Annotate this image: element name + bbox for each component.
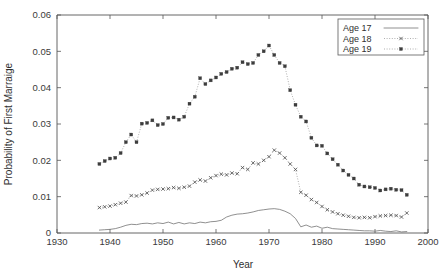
y-tick-label: 0.05 [33, 46, 52, 57]
data-point-marker [358, 183, 361, 186]
y-tick-label: 0.03 [33, 118, 52, 129]
data-point-marker [246, 63, 249, 66]
legend-label-age-17[interactable]: Age 17 [343, 23, 372, 33]
data-point-marker [103, 160, 106, 163]
x-tick-label: 1940 [99, 236, 120, 247]
y-tick-label: 0.04 [33, 82, 52, 93]
x-tick-label: 1950 [152, 236, 173, 247]
data-point-marker [326, 152, 329, 155]
data-point-marker [310, 136, 313, 139]
data-point-marker [220, 72, 223, 75]
x-tick-label: 2000 [417, 236, 438, 247]
data-point-marker [209, 79, 212, 82]
data-point-marker [315, 144, 318, 147]
x-tick-label: 1980 [311, 236, 332, 247]
data-point-marker [331, 158, 334, 161]
data-point-marker [342, 169, 345, 172]
data-point-marker [241, 61, 244, 64]
data-point-marker [347, 173, 350, 176]
data-point-marker [109, 157, 112, 160]
data-point-marker [172, 116, 175, 119]
data-point-marker [252, 61, 255, 64]
data-point-marker [305, 120, 308, 123]
y-tick-label: 0.06 [33, 9, 52, 20]
y-tick-label: 0 [46, 227, 51, 238]
data-point-marker [225, 71, 228, 74]
data-point-marker [374, 186, 377, 189]
y-axis-title: Probability of First Marraige [3, 62, 14, 185]
data-point-marker [230, 67, 233, 70]
data-point-marker [204, 83, 207, 86]
data-point-marker [400, 189, 403, 192]
data-point-marker [273, 53, 276, 56]
data-point-marker [294, 103, 297, 106]
legend-label-age-19[interactable]: Age 19 [343, 44, 372, 54]
data-point-marker [289, 89, 292, 92]
x-tick-label: 1960 [205, 236, 226, 247]
data-point-marker [162, 123, 165, 126]
data-point-marker [135, 141, 138, 144]
data-point-marker [156, 124, 159, 127]
data-point-marker [130, 133, 133, 136]
data-point-marker [278, 61, 281, 64]
data-point-marker [336, 163, 339, 166]
legend-marker [400, 48, 403, 51]
x-tick-label: 1990 [364, 236, 385, 247]
data-point-marker [167, 116, 170, 119]
y-tick-label: 0.01 [33, 191, 52, 202]
figure-container: 19301940195019601970198019902000 00.010.… [0, 0, 446, 277]
figure-caption-fragment [0, 269, 446, 277]
data-point-marker [199, 77, 202, 80]
y-tick-label: 0.02 [33, 155, 52, 166]
data-point-marker [352, 177, 355, 180]
data-point-marker [368, 186, 371, 189]
data-point-marker [193, 95, 196, 98]
data-point-marker [114, 156, 117, 159]
data-point-marker [183, 115, 186, 118]
data-point-marker [188, 102, 191, 105]
data-point-marker [98, 162, 101, 165]
data-point-marker [177, 118, 180, 121]
line-chart: 19301940195019601970198019902000 00.010.… [0, 0, 446, 277]
legend-label-age-18[interactable]: Age 18 [343, 34, 372, 44]
data-point-marker [379, 189, 382, 192]
data-point-marker [384, 188, 387, 191]
x-tick-label: 1970 [258, 236, 279, 247]
data-point-marker [321, 144, 324, 147]
data-point-marker [146, 121, 149, 124]
data-point-marker [268, 44, 271, 47]
data-point-marker [119, 152, 122, 155]
data-point-marker [257, 53, 260, 56]
chart-legend[interactable]: Age 17Age 18Age 19 [338, 19, 424, 55]
data-point-marker [262, 50, 265, 53]
data-point-marker [124, 141, 127, 144]
data-point-marker [140, 122, 143, 125]
data-point-marker [215, 76, 218, 79]
data-point-marker [389, 187, 392, 190]
data-point-marker [363, 185, 366, 188]
data-point-marker [405, 193, 408, 196]
data-point-marker [299, 115, 302, 118]
data-point-marker [236, 66, 239, 69]
data-point-marker [283, 65, 286, 68]
data-point-marker [395, 188, 398, 191]
data-point-marker [151, 119, 154, 122]
